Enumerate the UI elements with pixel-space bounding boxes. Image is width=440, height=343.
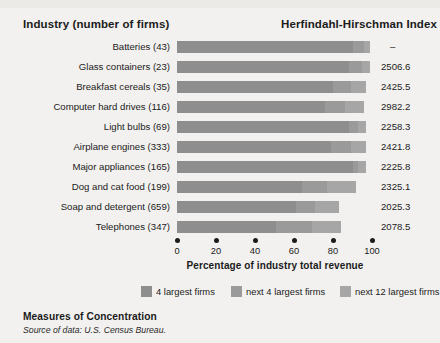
axis-tick-mark — [370, 238, 375, 243]
row-industry-label: Glass containers (23) — [0, 61, 170, 72]
legend-swatch-icon — [141, 286, 152, 297]
axis-tick-mark — [214, 238, 219, 243]
row-industry-label: Computer hard drives (116) — [0, 101, 170, 112]
stacked-bar — [177, 101, 364, 113]
chart-row: Major appliances (165)2225.8 — [0, 158, 440, 178]
stacked-bar — [177, 61, 370, 73]
axis-tick-mark — [253, 238, 258, 243]
legend-label: 4 largest firms — [156, 286, 215, 297]
bar-segment-1 — [177, 41, 353, 53]
bar-segment-3 — [364, 41, 370, 53]
chart-row: Airplane engines (333)2421.8 — [0, 138, 440, 158]
header-hhi-label: Herfindahl-Hirschman Index — [281, 18, 437, 30]
row-hhi-value: 2506.6 — [381, 61, 433, 72]
bar-segment-1 — [177, 161, 353, 173]
legend-item: next 12 largest firms — [340, 286, 439, 297]
bar-segment-3 — [351, 81, 367, 93]
bar-segment-2 — [296, 201, 316, 213]
bar-segment-3 — [358, 121, 366, 133]
row-hhi-value: 2982.2 — [381, 101, 433, 112]
chart-row: Light bulbs (69)2258.3 — [0, 118, 440, 138]
bar-segment-3 — [345, 101, 365, 113]
caption-source: Source of data: U.S. Census Bureau. — [23, 325, 423, 335]
page-top-edge — [0, 0, 440, 8]
chart-row: Dog and cat food (199)2325.1 — [0, 178, 440, 198]
figure-caption: Measures of Concentration Source of data… — [23, 311, 423, 335]
bar-segment-2 — [333, 81, 351, 93]
bar-segment-1 — [177, 201, 296, 213]
axis-tick-mark — [292, 238, 297, 243]
stacked-bar — [177, 41, 370, 53]
bar-segment-1 — [177, 61, 349, 73]
bar-segment-3 — [315, 201, 338, 213]
row-industry-label: Soap and detergent (659) — [0, 201, 170, 212]
bar-segment-2 — [276, 221, 311, 233]
stacked-bar — [177, 181, 356, 193]
row-industry-label: Telephones (347) — [0, 221, 170, 232]
chart-row: Computer hard drives (116)2982.2 — [0, 98, 440, 118]
row-hhi-value: 2325.1 — [381, 181, 433, 192]
row-industry-label: Dog and cat food (199) — [0, 181, 170, 192]
stacked-bar — [177, 161, 366, 173]
bar-segment-1 — [177, 181, 302, 193]
chart-figure: Industry (number of firms) Herfindahl-Hi… — [0, 0, 440, 343]
row-hhi-value: 2425.5 — [381, 81, 433, 92]
bar-segment-1 — [177, 141, 331, 153]
axis-tick-label: 80 — [313, 246, 353, 256]
bar-segment-3 — [362, 61, 370, 73]
stacked-bar — [177, 221, 341, 233]
row-industry-label: Major appliances (165) — [0, 161, 170, 172]
header-industry-label: Industry (number of firms) — [23, 18, 169, 30]
bar-segment-1 — [177, 221, 276, 233]
legend-swatch-icon — [340, 286, 351, 297]
axis-tick-label: 100 — [352, 246, 392, 256]
bar-segment-2 — [353, 41, 365, 53]
bar-segment-2 — [331, 141, 351, 153]
axis-tick-label: 60 — [274, 246, 314, 256]
axis-tick-label: 0 — [157, 246, 197, 256]
bar-segment-3 — [312, 221, 341, 233]
row-industry-label: Airplane engines (333) — [0, 141, 170, 152]
row-hhi-value: 2225.8 — [381, 161, 433, 172]
axis-tick-mark — [175, 238, 180, 243]
legend-swatch-icon — [231, 286, 242, 297]
chart-legend: 4 largest firmsnext 4 largest firmsnext … — [0, 286, 440, 302]
stacked-bar — [177, 201, 339, 213]
bar-segment-1 — [177, 81, 333, 93]
axis-tick-label: 40 — [235, 246, 275, 256]
chart-row: Telephones (347)2078.5 — [0, 218, 440, 238]
bar-segment-2 — [302, 181, 327, 193]
axis-tick-mark — [331, 238, 336, 243]
row-hhi-value: – — [390, 41, 440, 52]
chart-row: Batteries (43)– — [0, 38, 440, 58]
row-hhi-value: 2421.8 — [381, 141, 433, 152]
stacked-bar — [177, 121, 366, 133]
plot-area: Batteries (43)–Glass containers (23)2506… — [0, 38, 440, 238]
legend-label: next 12 largest firms — [355, 286, 439, 297]
row-industry-label: Light bulbs (69) — [0, 121, 170, 132]
row-industry-label: Batteries (43) — [0, 41, 170, 52]
row-hhi-value: 2025.3 — [381, 201, 433, 212]
bar-segment-2 — [349, 121, 359, 133]
bar-segment-1 — [177, 101, 325, 113]
bar-segment-1 — [177, 121, 349, 133]
bar-segment-3 — [358, 161, 366, 173]
chart-row: Glass containers (23)2506.6 — [0, 58, 440, 78]
chart-row: Soap and detergent (659)2025.3 — [0, 198, 440, 218]
x-axis-title: Percentage of industry total revenue — [177, 260, 373, 271]
chart-row: Breakfast cereals (35)2425.5 — [0, 78, 440, 98]
axis-tick-label: 20 — [196, 246, 236, 256]
caption-title: Measures of Concentration — [23, 311, 423, 322]
row-industry-label: Breakfast cereals (35) — [0, 81, 170, 92]
legend-item: next 4 largest firms — [231, 286, 325, 297]
bar-segment-2 — [325, 101, 345, 113]
x-axis: Percentage of industry total revenue 020… — [0, 238, 440, 272]
bar-segment-3 — [351, 141, 367, 153]
bar-segment-2 — [349, 61, 363, 73]
stacked-bar — [177, 81, 366, 93]
bar-segment-3 — [327, 181, 356, 193]
chart-header: Industry (number of firms) Herfindahl-Hi… — [0, 18, 440, 34]
legend-item: 4 largest firms — [141, 286, 215, 297]
row-hhi-value: 2078.5 — [381, 221, 433, 232]
legend-label: next 4 largest firms — [246, 286, 325, 297]
